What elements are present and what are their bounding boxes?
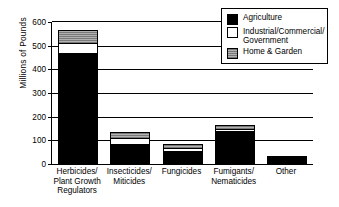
x-axis-tick-label: Insecticides/Miticides [103,167,155,186]
bar-segment [267,157,307,164]
x-axis-tick-label: Fumigants/Nematicides [208,167,260,186]
y-axis-tick [48,164,52,165]
y-axis-tick-label: 100 [16,136,46,145]
chart-legend: Agriculture Industrial/Commercial/ Gover… [221,8,328,64]
y-axis-tick-label: 0 [16,160,46,169]
bar-segment [58,30,98,43]
bar-segment [58,53,98,164]
bar [267,156,307,164]
bar-segment [58,43,98,52]
bar-segment [110,144,150,164]
gray-swatch-icon [227,48,238,59]
legend-item-agriculture: Agriculture [227,13,323,25]
black-swatch-icon [227,14,238,25]
y-axis-tick-label: 400 [16,65,46,74]
legend-label-agriculture: Agriculture [243,13,282,22]
x-axis-tick-label: Fungicides [155,167,207,177]
legend-label-home-garden: Home & Garden [243,47,302,56]
y-axis-tick-label: 600 [16,18,46,27]
legend-label-industrial: Industrial/Commercial/ Government [243,27,324,46]
legend-item-industrial: Industrial/Commercial/ Government [227,27,323,46]
white-swatch-icon [227,27,238,38]
bar-segment [215,131,255,164]
legend-item-home-garden: Home & Garden [227,47,323,59]
bar [215,125,255,164]
x-axis-tick-label: Herbicides/Plant GrowthRegulators [51,167,103,196]
bar [110,132,150,164]
y-axis-tick-label: 300 [16,89,46,98]
y-axis-tick-label: 200 [16,112,46,121]
bar [58,30,98,164]
stacked-bar-chart: Millions of Pounds 0100200300400500600 H… [0,0,339,207]
bar-segment [163,151,203,164]
y-axis-tick-label: 500 [16,41,46,50]
x-axis-labels: Herbicides/Plant GrowthRegulatorsInsecti… [51,167,312,207]
bar [163,144,203,164]
x-axis-tick-label: Other [260,167,312,177]
